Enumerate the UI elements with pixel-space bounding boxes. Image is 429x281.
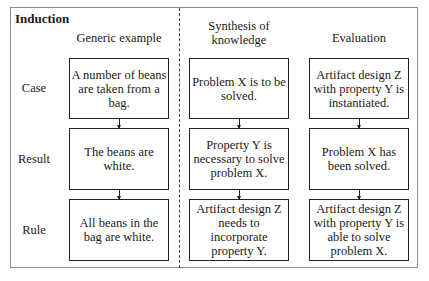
arrow-down-icon (359, 190, 360, 199)
box-generic-result: The beans are white. (69, 128, 169, 190)
row-label-result: Result (14, 152, 54, 167)
column-heading-synthesis: Synthesis of knowledge (189, 19, 289, 47)
dashed-divider (179, 8, 180, 268)
box-synthesis-case: Problem X is to be solved. (189, 58, 289, 119)
box-evaluation-result: Problem X has been solved. (309, 128, 409, 190)
box-synthesis-rule: Artifact design Z needs to incorporate p… (189, 199, 289, 261)
arrow-down-icon (359, 119, 360, 128)
diagram-title: Induction (15, 11, 69, 27)
arrow-down-icon (239, 119, 240, 128)
box-evaluation-case: Artifact design Z with property Y is ins… (309, 58, 409, 119)
column-heading-generic-example: Generic example (69, 31, 169, 45)
box-generic-rule: All beans in the bag are white. (69, 199, 169, 261)
arrow-down-icon (239, 190, 240, 199)
column-heading-evaluation: Evaluation (309, 31, 409, 45)
arrow-down-icon (119, 119, 120, 128)
row-label-case: Case (14, 81, 54, 96)
box-generic-case: A number of beans are taken from a bag. (69, 58, 169, 119)
arrow-down-icon (119, 190, 120, 199)
box-synthesis-result: Property Y is necessary to solve problem… (189, 128, 289, 190)
row-label-rule: Rule (14, 223, 54, 238)
box-evaluation-rule: Artifact design Z with property Y is abl… (309, 199, 409, 261)
